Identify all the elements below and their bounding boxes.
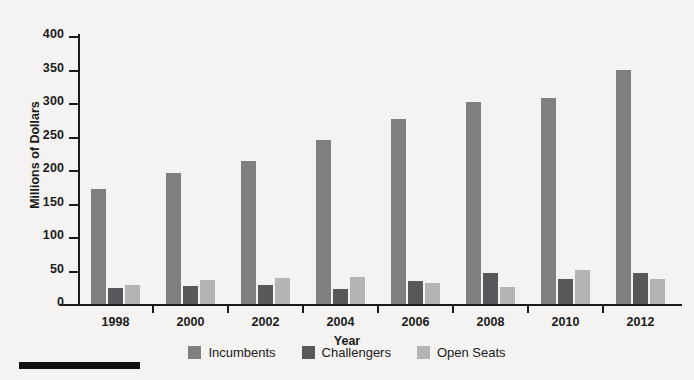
bar-challengers-2000 — [183, 286, 198, 304]
bar-open-seats-2002 — [275, 278, 290, 304]
plot-area — [78, 36, 678, 304]
y-axis-tick-mark — [69, 271, 78, 273]
y-axis-tick-mark — [69, 103, 78, 105]
legend-item-incumbents[interactable]: Incumbents — [188, 345, 275, 360]
bar-open-seats-2000 — [200, 280, 215, 304]
y-axis-tick-label: 100 — [43, 228, 64, 242]
legend-label: Open Seats — [437, 345, 506, 360]
bar-open-seats-2004 — [350, 277, 365, 304]
x-axis-tick-label: 2002 — [228, 315, 303, 329]
x-axis-tick-mark — [302, 306, 304, 313]
bar-challengers-2010 — [558, 279, 573, 304]
x-axis-tick-label: 2012 — [603, 315, 678, 329]
y-axis-tick-label: 300 — [43, 94, 64, 108]
bar-challengers-2004 — [333, 289, 348, 304]
x-axis-tick-mark — [452, 306, 454, 313]
chart-legend: IncumbentsChallengersOpen Seats — [0, 345, 694, 360]
bar-open-seats-2010 — [575, 270, 590, 304]
legend-swatch-icon — [302, 346, 315, 359]
x-axis-tick-mark — [602, 306, 604, 313]
bar-incumbents-2006 — [391, 119, 406, 304]
bar-challengers-2008 — [483, 273, 498, 304]
legend-item-open-seats[interactable]: Open Seats — [417, 345, 506, 360]
legend-swatch-icon — [188, 346, 201, 359]
y-axis-tick-label: 400 — [43, 27, 64, 41]
bar-challengers-2006 — [408, 281, 423, 304]
x-axis-tick-label: 1998 — [78, 315, 153, 329]
x-axis-tick-label: 2004 — [303, 315, 378, 329]
y-axis-title: Millions of Dollars — [28, 75, 42, 235]
bar-open-seats-2012 — [650, 279, 665, 304]
x-axis-tick-mark — [152, 306, 154, 313]
legend-label: Incumbents — [208, 345, 275, 360]
bar-incumbents-2010 — [541, 98, 556, 304]
bar-incumbents-2000 — [166, 173, 181, 304]
y-axis-tick-mark — [69, 36, 78, 38]
footer-rule — [19, 362, 140, 369]
bar-incumbents-2002 — [241, 161, 256, 304]
y-axis-tick-mark — [69, 204, 78, 206]
y-axis-tick-label: 250 — [43, 128, 64, 142]
bar-incumbents-2012 — [616, 70, 631, 304]
x-axis-tick-label: 2000 — [153, 315, 228, 329]
bar-open-seats-2008 — [500, 287, 515, 304]
y-axis-tick-label: 0 — [57, 295, 64, 309]
legend-label: Challengers — [322, 345, 391, 360]
bar-incumbents-1998 — [91, 189, 106, 304]
y-axis-tick-mark — [69, 237, 78, 239]
bar-challengers-1998 — [108, 288, 123, 304]
y-axis-tick-label: 200 — [43, 161, 64, 175]
bar-challengers-2012 — [633, 273, 648, 304]
x-axis-tick-label: 2006 — [378, 315, 453, 329]
y-axis-tick-mark — [69, 304, 78, 306]
bar-open-seats-2006 — [425, 283, 440, 304]
legend-item-challengers[interactable]: Challengers — [302, 345, 391, 360]
y-axis-tick-mark — [69, 70, 78, 72]
x-axis-tick-label: 2010 — [528, 315, 603, 329]
x-axis-tick-label: 2008 — [453, 315, 528, 329]
bar-challengers-2002 — [258, 285, 273, 304]
y-axis-tick-label: 50 — [50, 262, 64, 276]
y-axis-tick-label: 350 — [43, 61, 64, 75]
x-axis-tick-mark — [527, 306, 529, 313]
x-axis-tick-mark — [227, 306, 229, 313]
y-axis-tick-label: 150 — [43, 195, 64, 209]
bar-open-seats-1998 — [125, 285, 140, 304]
bar-incumbents-2004 — [316, 140, 331, 304]
x-axis-tick-mark — [377, 306, 379, 313]
legend-swatch-icon — [417, 346, 430, 359]
bar-incumbents-2008 — [466, 102, 481, 304]
y-axis-tick-mark — [69, 170, 78, 172]
x-axis-ticks: 19982000200220042006200820102012 — [78, 306, 678, 336]
bar-chart-figure: 050100150200250300350400 Millions of Dol… — [0, 0, 694, 380]
y-axis-tick-mark — [69, 137, 78, 139]
